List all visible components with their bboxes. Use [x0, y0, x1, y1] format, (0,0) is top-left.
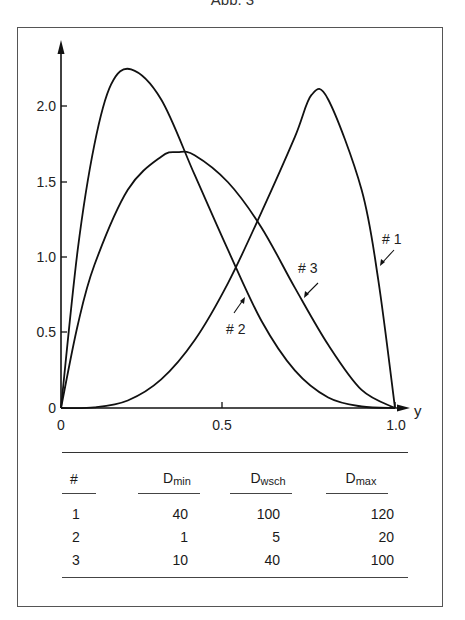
svg-text:# 1: # 1: [382, 231, 402, 247]
y-tick-label: 0.5: [37, 324, 57, 340]
curve-label-2: # 2: [226, 297, 246, 337]
x-axis-label: y: [414, 402, 422, 419]
header-num: #: [62, 471, 132, 487]
table-row: 3 10 40 100: [62, 548, 408, 571]
curve-label-1: # 1: [380, 231, 402, 266]
y-tick-label: 0: [48, 400, 56, 416]
table-top-rule: [62, 452, 408, 453]
curve-2: [61, 69, 395, 408]
header-dwsch: Dwsch: [222, 470, 314, 487]
curve-label-3: # 3: [298, 260, 318, 298]
curve-3: [61, 152, 395, 408]
y-tick-label: 1.0: [37, 249, 57, 265]
x-tick-label: 1.0: [386, 417, 406, 433]
header-dmax: Dmax: [314, 470, 408, 487]
y-tick-label: 2.0: [37, 98, 57, 114]
table-header-row: # Dmin Dwsch Dmax: [62, 465, 408, 487]
parameter-table: # Dmin Dwsch Dmax 1 40 100 120 2 1 5 20 …: [62, 452, 408, 578]
x-tick-label: 0: [57, 417, 65, 433]
x-axis-arrow-icon: [397, 405, 410, 412]
svg-text:# 3: # 3: [298, 260, 318, 276]
header-dmin: Dmin: [132, 470, 222, 487]
y-axis-arrow-icon: [58, 40, 65, 54]
curves: [61, 69, 395, 408]
y-axis: [58, 40, 65, 408]
table-row: 2 1 5 20: [62, 525, 408, 548]
x-tick-label: 0.5: [212, 417, 232, 433]
y-tick-label: 1.5: [37, 174, 57, 190]
chart-plot: 0 0.5 1.0 1.5 2.0 0 0.5 1.0 y # 1 # 3 # …: [0, 0, 465, 450]
svg-text:# 2: # 2: [226, 321, 246, 337]
header-underlines: [62, 493, 408, 494]
table-row: 1 40 100 120: [62, 502, 408, 525]
table-bottom-rule: [62, 577, 408, 578]
